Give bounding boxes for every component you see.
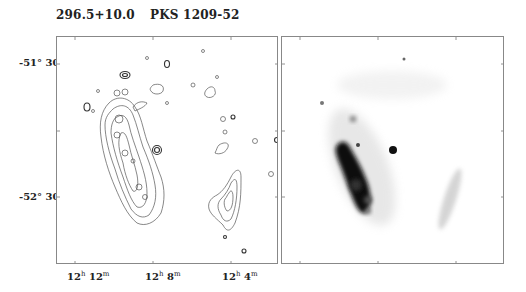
x-tick-label-1: 12h 12m — [67, 270, 109, 282]
x-tick-label-3: 12h 4m — [222, 270, 258, 282]
contour-plot — [57, 37, 278, 264]
source-name-title: PKS 1209-52 — [150, 8, 240, 22]
contour-map-panel — [56, 36, 278, 264]
source-id-title: 296.5+10.0 — [56, 8, 135, 22]
greyscale-image — [282, 37, 504, 264]
x-tick-label-2: 12h 8m — [145, 270, 181, 282]
greyscale-image-panel — [281, 36, 504, 264]
